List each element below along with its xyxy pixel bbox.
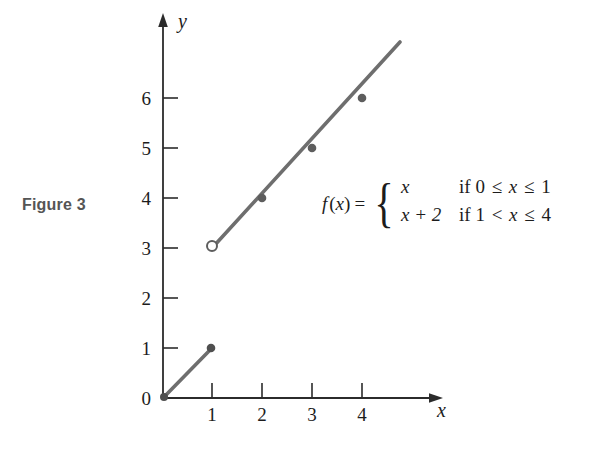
case2-if: if xyxy=(459,204,471,225)
x-tick-label-2: 2 xyxy=(251,404,273,426)
formula-case-row-2: x + 2 if 1 < x ≤ 4 xyxy=(401,204,551,232)
point-marker-2-4 xyxy=(258,194,267,203)
y-tick-label-2: 2 xyxy=(129,288,151,310)
formula-argument: x xyxy=(336,193,344,215)
formula-close-paren: ) xyxy=(344,193,350,215)
case1-if: if xyxy=(459,176,471,197)
y-tick-label-6: 6 xyxy=(129,88,151,110)
case2-relation-1: < xyxy=(490,204,505,226)
x-axis-ticks xyxy=(212,383,362,398)
formula-function-name: f xyxy=(322,193,327,215)
curve-segment-lower xyxy=(164,349,211,397)
y-tick-label-3: 3 xyxy=(129,238,151,260)
case1-expression: x xyxy=(401,176,459,198)
case2-lower: 1 xyxy=(475,204,485,225)
case1-upper: 1 xyxy=(541,176,551,197)
x-tick-label-4: 4 xyxy=(351,404,373,426)
case1-condition: if 0 ≤ x ≤ 1 xyxy=(459,176,551,198)
point-marker-1-1-closed xyxy=(207,344,216,353)
case1-lower: 0 xyxy=(475,176,485,197)
case1-relation-2: ≤ xyxy=(522,176,536,198)
formula-brace: { xyxy=(374,182,393,225)
point-marker-4-6 xyxy=(358,94,367,103)
point-marker-origin xyxy=(160,393,168,401)
case2-upper: 4 xyxy=(541,204,551,225)
point-marker-3-5 xyxy=(308,144,317,153)
case2-condition: if 1 < x ≤ 4 xyxy=(459,204,551,226)
case2-variable: x xyxy=(509,204,517,225)
x-axis-label: x xyxy=(437,399,446,422)
case2-relation-2: ≤ xyxy=(522,204,536,226)
case1-relation-1: ≤ xyxy=(490,176,504,198)
formula-cases: x if 0 ≤ x ≤ 1 x + 2 if 1 < x ≤ xyxy=(401,176,551,232)
x-tick-label-3: 3 xyxy=(301,404,323,426)
x-tick-label-1: 1 xyxy=(201,404,223,426)
y-axis-ticks xyxy=(163,98,178,348)
case1-variable: x xyxy=(509,176,517,197)
y-tick-label-5: 5 xyxy=(129,138,151,160)
case2-expression: x + 2 xyxy=(401,204,459,226)
y-tick-label-4: 4 xyxy=(129,188,151,210)
y-axis-arrowhead xyxy=(158,13,168,27)
origin-label: 0 xyxy=(129,388,151,410)
point-marker-1-3-open xyxy=(207,241,217,251)
y-axis-label: y xyxy=(178,10,187,33)
y-tick-label-1: 1 xyxy=(129,338,151,360)
formula-case-row-1: x if 0 ≤ x ≤ 1 xyxy=(401,176,551,204)
piecewise-formula: f(x) = { x if 0 ≤ x ≤ 1 x + 2 if 1 xyxy=(322,176,551,232)
formula-equals: = xyxy=(354,193,365,215)
figure-container: Figure 3 xyxy=(0,0,608,457)
